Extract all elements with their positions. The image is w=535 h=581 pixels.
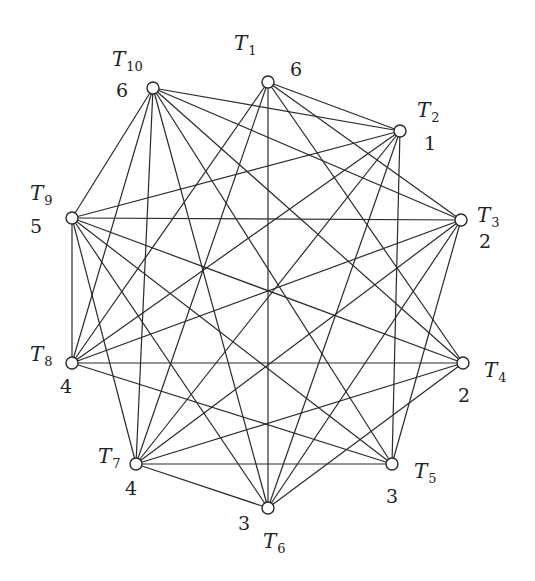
- edge-t10-t4: [153, 88, 463, 363]
- edge-t9-t5: [72, 218, 392, 464]
- node-value-t5: 3: [386, 485, 398, 507]
- node-t8: [66, 357, 78, 369]
- node-label-t3: T3: [477, 203, 500, 230]
- node-t7: [130, 458, 142, 470]
- edge-t3-t8: [72, 220, 461, 363]
- edge-t2-t5: [392, 131, 400, 464]
- edge-t2-t6: [268, 131, 400, 508]
- graph-diagram: T16T21T32T42T53T63T74T84T95T106: [0, 0, 535, 581]
- node-value-t10: 6: [116, 79, 128, 101]
- node-label-t2: T2: [417, 98, 440, 125]
- node-t6: [262, 502, 274, 514]
- node-t9: [66, 212, 78, 224]
- node-label-t8: T8: [30, 342, 53, 369]
- edge-t1-t7: [136, 82, 268, 464]
- node-label-t10: T10: [112, 47, 143, 74]
- node-value-t1: 6: [290, 58, 302, 80]
- node-value-t7: 4: [125, 477, 137, 499]
- edge-t3-t9: [72, 218, 461, 220]
- edges-layer: [72, 82, 463, 508]
- edge-t1-t2: [268, 82, 400, 131]
- edge-t2-t8: [72, 131, 400, 363]
- node-t1: [262, 76, 274, 88]
- node-label-t9: T9: [30, 181, 53, 208]
- edge-t10-t6: [153, 88, 268, 508]
- edge-t6-t4: [268, 363, 463, 508]
- node-label-t4: T4: [484, 358, 507, 385]
- edge-t10-t8: [72, 88, 153, 363]
- node-t2: [394, 125, 406, 137]
- node-label-t1: T1: [234, 31, 257, 58]
- node-value-t6: 3: [238, 512, 250, 534]
- node-value-t9: 5: [30, 215, 42, 237]
- edge-t7-t4: [136, 363, 463, 464]
- edge-t10-t7: [136, 88, 153, 464]
- edge-t3-t5: [392, 220, 461, 464]
- edge-t10-t9: [72, 88, 153, 218]
- node-value-t4: 2: [458, 384, 470, 406]
- node-value-t2: 1: [424, 132, 436, 154]
- edge-t6-t3: [268, 220, 461, 508]
- node-label-t5: T5: [414, 459, 437, 486]
- edge-t2-t9: [72, 131, 400, 218]
- node-value-t8: 4: [60, 375, 72, 397]
- edge-t7-t6: [136, 464, 268, 508]
- node-label-t6: T6: [263, 529, 286, 556]
- edge-t3-t7: [136, 220, 461, 464]
- node-t3: [455, 214, 467, 226]
- node-label-t7: T7: [98, 444, 121, 471]
- node-value-t3: 2: [479, 230, 491, 252]
- node-t4: [457, 357, 469, 369]
- node-t5: [386, 458, 398, 470]
- node-t10: [147, 82, 159, 94]
- edge-t10-t3: [153, 88, 461, 220]
